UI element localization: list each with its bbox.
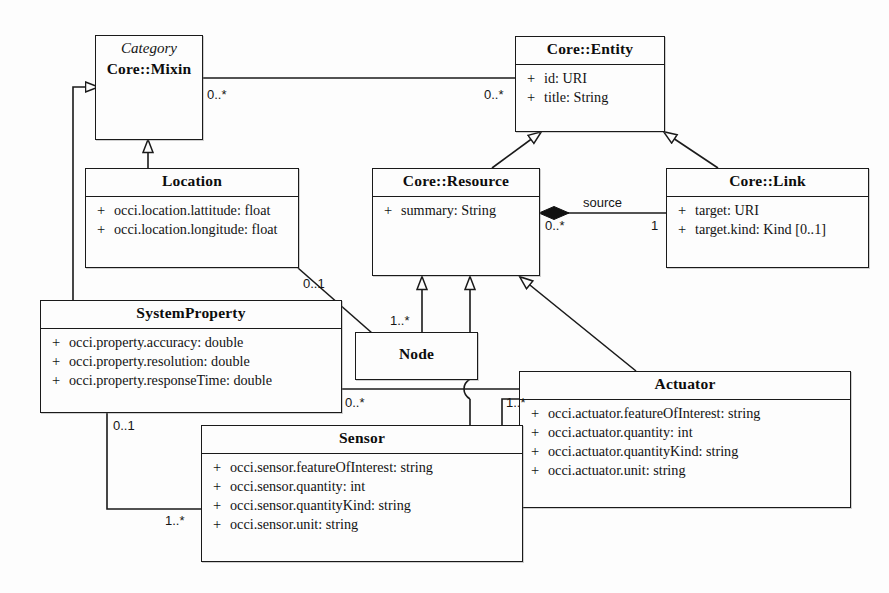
- uml-class-diagram: Category Core::Mixin Core::Entity + id: …: [0, 0, 889, 593]
- attributes-systemproperty: + occi.property.accuracy: double + occi.…: [41, 329, 341, 395]
- attribute-visibility: +: [669, 201, 695, 220]
- class-box-node[interactable]: Node: [355, 332, 478, 380]
- multiplicity-systemproperty-actuator: 0..*: [345, 396, 365, 409]
- attribute-text: occi.actuator.quantity: int: [548, 423, 848, 442]
- attribute-text: occi.property.resolution: double: [69, 352, 339, 371]
- attribute-text: occi.sensor.quantityKind: string: [230, 496, 520, 515]
- attribute-row: + occi.sensor.unit: string: [204, 515, 520, 534]
- attribute-visibility: +: [204, 515, 230, 534]
- class-box-core-entity[interactable]: Core::Entity + id: URI + title: String: [515, 36, 665, 132]
- multiplicity-actuator-systemproperty: 1..*: [506, 396, 526, 409]
- attribute-text: occi.location.longitude: float: [114, 220, 296, 239]
- attribute-text: occi.sensor.quantity: int: [230, 477, 520, 496]
- attribute-text: occi.property.accuracy: double: [69, 333, 339, 352]
- attribute-row: + target: URI: [669, 201, 866, 220]
- attribute-text: occi.property.responseTime: double: [69, 371, 339, 390]
- multiplicity-node-location: 1..*: [390, 314, 410, 327]
- class-name-sensor: Sensor: [202, 426, 522, 453]
- attributes-core-resource: + summary: String: [373, 197, 539, 225]
- attribute-visibility: +: [43, 371, 69, 390]
- attribute-row: + occi.location.longitude: float: [88, 220, 296, 239]
- class-name-core-entity: Core::Entity: [516, 37, 664, 64]
- attribute-text: target: URI: [695, 201, 866, 220]
- attributes-core-entity: + id: URI + title: String: [516, 65, 664, 112]
- multiplicity-resource-source: 0..*: [545, 219, 565, 232]
- attribute-row: + occi.sensor.featureOfInterest: string: [204, 458, 520, 477]
- attribute-visibility: +: [522, 423, 548, 442]
- attribute-visibility: +: [88, 201, 114, 220]
- class-name-node: Node: [356, 333, 477, 369]
- attribute-text: occi.actuator.quantityKind: string: [548, 442, 848, 461]
- attribute-row: + target.kind: Kind [0..1]: [669, 220, 866, 239]
- attribute-visibility: +: [204, 458, 230, 477]
- attribute-visibility: +: [375, 201, 401, 220]
- edge-link-to-entity: [664, 132, 718, 168]
- attribute-text: occi.location.lattitude: float: [114, 201, 296, 220]
- attribute-row: + summary: String: [375, 201, 537, 220]
- attribute-visibility: +: [88, 220, 114, 239]
- attribute-visibility: +: [522, 461, 548, 480]
- attribute-row: + occi.sensor.quantity: int: [204, 477, 520, 496]
- attribute-row: + occi.property.responseTime: double: [43, 371, 339, 390]
- attribute-row: + occi.location.lattitude: float: [88, 201, 296, 220]
- class-box-systemproperty[interactable]: SystemProperty + occi.property.accuracy:…: [40, 300, 342, 413]
- attribute-visibility: +: [518, 88, 544, 107]
- class-name-core-resource: Core::Resource: [373, 169, 539, 196]
- attribute-visibility: +: [43, 352, 69, 371]
- edge-resource-to-entity: [492, 132, 541, 168]
- class-box-core-resource[interactable]: Core::Resource + summary: String: [372, 168, 540, 276]
- attribute-text: id: URI: [544, 69, 662, 88]
- attribute-text: title: String: [544, 88, 662, 107]
- class-name-location: Location: [86, 169, 298, 196]
- multiplicity-mixin-entity-right: 0..*: [484, 88, 504, 101]
- attribute-row: + occi.property.accuracy: double: [43, 333, 339, 352]
- attribute-visibility: +: [522, 404, 548, 423]
- attribute-visibility: +: [669, 220, 695, 239]
- attribute-text: occi.sensor.featureOfInterest: string: [230, 458, 520, 477]
- class-name-actuator: Actuator: [520, 372, 850, 399]
- multiplicity-link-target: 1: [651, 219, 658, 232]
- attribute-text: summary: String: [401, 201, 537, 220]
- class-box-core-link[interactable]: Core::Link + target: URI + target.kind: …: [666, 168, 869, 268]
- attribute-row: + occi.actuator.quantityKind: string: [522, 442, 848, 461]
- attribute-visibility: +: [518, 69, 544, 88]
- class-box-core-mixin[interactable]: Category Core::Mixin: [95, 35, 203, 140]
- attributes-core-link: + target: URI + target.kind: Kind [0..1]: [667, 197, 868, 244]
- class-name-core-mixin: Core::Mixin: [96, 57, 202, 84]
- attribute-visibility: +: [43, 333, 69, 352]
- attribute-row: + title: String: [518, 88, 662, 107]
- edge-actuator-to-resource: [520, 277, 636, 371]
- class-box-location[interactable]: Location + occi.location.lattitude: floa…: [85, 168, 299, 268]
- role-label-source: source: [583, 196, 622, 209]
- class-box-sensor[interactable]: Sensor + occi.sensor.featureOfInterest: …: [201, 425, 523, 562]
- class-box-actuator[interactable]: Actuator + occi.actuator.featureOfIntere…: [519, 371, 851, 508]
- attribute-row: + id: URI: [518, 69, 662, 88]
- multiplicity-location-node: 0..1: [303, 277, 325, 290]
- class-name-core-link: Core::Link: [667, 169, 868, 196]
- attribute-text: occi.sensor.unit: string: [230, 515, 520, 534]
- attribute-text: occi.actuator.unit: string: [548, 461, 848, 480]
- multiplicity-sensor-systemproperty: 1..*: [165, 514, 185, 527]
- attribute-text: target.kind: Kind [0..1]: [695, 220, 866, 239]
- attributes-sensor: + occi.sensor.featureOfInterest: string …: [202, 454, 522, 540]
- class-stereotype-category: Category: [96, 36, 202, 57]
- class-name-systemproperty: SystemProperty: [41, 301, 341, 328]
- attribute-row: + occi.actuator.quantity: int: [522, 423, 848, 442]
- attribute-text: occi.actuator.featureOfInterest: string: [548, 404, 848, 423]
- multiplicity-mixin-entity-left: 0..*: [207, 88, 227, 101]
- attributes-location: + occi.location.lattitude: float + occi.…: [86, 197, 298, 244]
- attribute-row: + occi.sensor.quantityKind: string: [204, 496, 520, 515]
- attribute-visibility: +: [522, 442, 548, 461]
- attribute-row: + occi.actuator.unit: string: [522, 461, 848, 480]
- attribute-visibility: +: [204, 477, 230, 496]
- attribute-row: + occi.property.resolution: double: [43, 352, 339, 371]
- attributes-actuator: + occi.actuator.featureOfInterest: strin…: [520, 400, 850, 486]
- attribute-visibility: +: [204, 496, 230, 515]
- multiplicity-systemproperty-sensor: 0..1: [113, 419, 135, 432]
- attribute-row: + occi.actuator.featureOfInterest: strin…: [522, 404, 848, 423]
